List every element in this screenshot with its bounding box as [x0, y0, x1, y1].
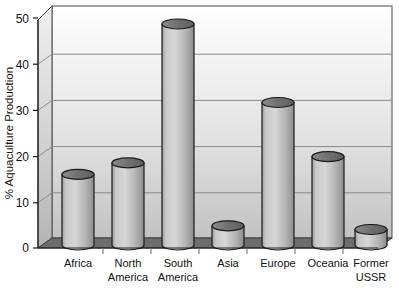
category-label-north-america-line1: North [115, 257, 142, 269]
bar-oceania[interactable] [312, 152, 344, 250]
bar-south-america[interactable] [162, 19, 194, 250]
aquaculture-production-bar-chart: 0 10 20 30 40 50 % Aquaculture Productio… [0, 0, 399, 288]
bar-asia[interactable] [212, 221, 244, 250]
bar-south-america-top [162, 19, 194, 29]
category-label-oceania: Oceania [308, 257, 350, 269]
category-label-former-ussr-line1: Former [353, 257, 389, 269]
category-label-europe: Europe [260, 257, 295, 269]
bar-north-america[interactable] [112, 158, 144, 250]
bar-south-america-body [162, 24, 194, 250]
category-labels: Africa North America South America Asia … [64, 257, 389, 283]
ytick-label-40: 40 [16, 58, 30, 72]
ytick-label-30: 30 [16, 104, 30, 118]
category-label-former-ussr-line2: USSR [356, 271, 387, 283]
bar-europe-top [262, 98, 294, 108]
y-axis: 0 10 20 30 40 50 [16, 12, 38, 256]
category-label-north-america-line2: America [108, 271, 149, 283]
category-label-south-america-line2: America [158, 271, 199, 283]
bar-africa-body [62, 174, 94, 250]
bar-former-ussr-top [355, 225, 387, 235]
bar-europe[interactable] [262, 98, 294, 251]
category-label-south-america-line1: South [164, 257, 193, 269]
bar-europe-body [262, 103, 294, 251]
bar-asia-top [212, 221, 244, 231]
bar-north-america-body [112, 163, 144, 250]
bar-oceania-top [312, 152, 344, 162]
chart-svg: 0 10 20 30 40 50 % Aquaculture Productio… [0, 0, 399, 288]
ytick-label-0: 0 [22, 241, 29, 255]
category-label-africa: Africa [64, 257, 93, 269]
ytick-label-20: 20 [16, 150, 30, 164]
bar-africa[interactable] [62, 169, 94, 250]
left-side-wall [38, 6, 52, 248]
y-axis-ticks [33, 18, 38, 248]
y-axis-title: % Aquaculture Production [3, 67, 15, 199]
category-label-asia: Asia [217, 257, 239, 269]
ytick-label-10: 10 [16, 196, 30, 210]
bar-north-america-top [112, 158, 144, 168]
bar-oceania-body [312, 157, 344, 250]
bar-africa-top [62, 169, 94, 179]
bar-former-ussr[interactable] [355, 225, 387, 251]
ytick-label-50: 50 [16, 12, 30, 26]
